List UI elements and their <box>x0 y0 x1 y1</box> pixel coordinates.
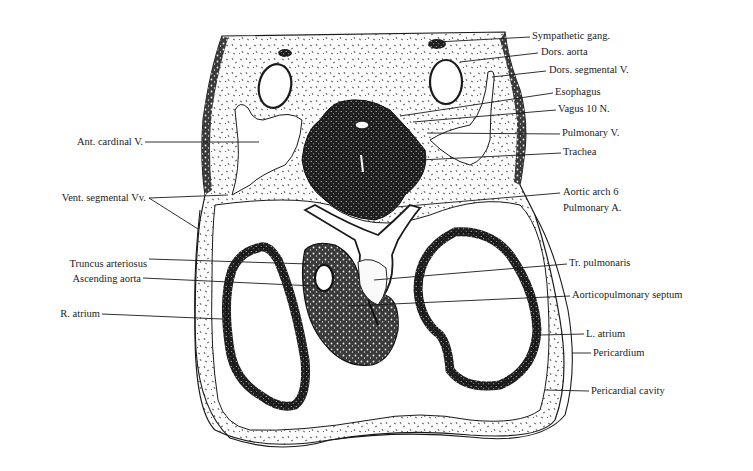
sympathetic-ganglion-right <box>428 39 446 49</box>
dorsal-aorta-right <box>430 60 462 104</box>
esophagus-lumen <box>355 121 369 129</box>
label-dors-segmental-v: Dors. segmental V. <box>549 64 629 76</box>
label-esophagus: Esophagus <box>555 86 601 98</box>
label-vent-segmental-vv: Vent. segmental Vv. <box>62 192 146 204</box>
label-pericardium: Pericardium <box>593 347 644 359</box>
label-vagus-10-n: Vagus 10 N. <box>558 103 610 115</box>
label-dors-aorta: Dors. aorta <box>541 46 588 58</box>
label-ant-cardinal-v: Ant. cardinal V. <box>77 136 143 148</box>
label-pulmonary-a: Pulmonary A. <box>563 202 621 214</box>
sympathetic-ganglion-left <box>278 49 292 57</box>
embryo-section-diagram <box>0 0 753 471</box>
label-sympathetic-gang: Sympathetic gang. <box>532 30 610 42</box>
label-aorticopulmonary-septum: Aorticopulmonary septum <box>572 289 683 301</box>
label-pericardial-cavity: Pericardial cavity <box>591 385 665 397</box>
label-pulmonary-v: Pulmonary V. <box>562 127 619 139</box>
label-aortic-arch-6: Aortic arch 6 <box>563 186 618 198</box>
ascending-aorta-lumen <box>315 265 333 291</box>
label-l-atrium: L. atrium <box>586 328 625 340</box>
label-truncus-arteriosus: Truncus arteriosus <box>70 258 147 270</box>
label-r-atrium: R. atrium <box>60 308 100 320</box>
label-tr-pulmonaris: Tr. pulmonaris <box>569 257 630 269</box>
label-ascending-aorta: Ascending aorta <box>72 273 141 285</box>
label-trachea: Trachea <box>563 146 596 158</box>
